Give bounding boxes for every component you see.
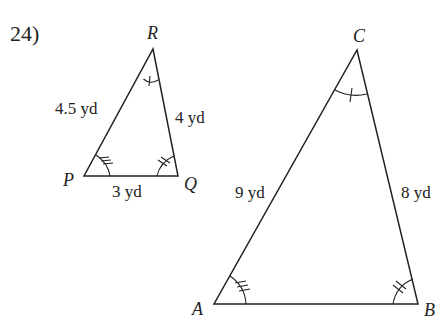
vertex-label-c: C <box>353 26 366 46</box>
side-label-pq: 3 yd <box>112 182 142 201</box>
vertex-label-b: B <box>424 300 435 320</box>
angle-a-tick-3 <box>239 289 250 291</box>
problem-number: 24) <box>10 21 39 46</box>
angle-a-tick-2 <box>237 285 248 287</box>
angle-c-mark <box>335 88 367 102</box>
side-label-pr: 4.5 yd <box>55 99 98 118</box>
angle-r-mark <box>144 76 159 86</box>
angle-p-mark <box>96 155 113 176</box>
vertex-label-r: R <box>146 23 158 43</box>
triangle-pqr: R P Q 4.5 yd 4 yd 3 yd <box>55 23 205 201</box>
side-label-ac: 9 yd <box>235 183 265 202</box>
angle-q-mark <box>157 156 174 176</box>
angle-q-arc <box>157 156 174 176</box>
angle-a-mark <box>230 276 250 304</box>
triangle-abc: C A B 9 yd 8 yd <box>191 26 435 320</box>
angle-r-arc <box>144 79 159 82</box>
side-label-cb: 8 yd <box>401 183 431 202</box>
angle-r-tick <box>149 76 150 86</box>
vertex-label-p: P <box>62 170 74 190</box>
angle-p-tick-1 <box>99 157 109 158</box>
triangle-abc-outline <box>214 50 418 304</box>
similar-triangles-diagram: 24) R P Q 4.5 yd 4 yd 3 yd <box>0 0 446 330</box>
vertex-label-a: A <box>191 299 204 319</box>
angle-b-mark <box>393 279 413 304</box>
vertex-label-q: Q <box>184 174 197 194</box>
angle-b-arc <box>393 279 413 304</box>
angle-q-tick-2 <box>161 157 170 163</box>
side-label-rq: 4 yd <box>175 108 205 127</box>
